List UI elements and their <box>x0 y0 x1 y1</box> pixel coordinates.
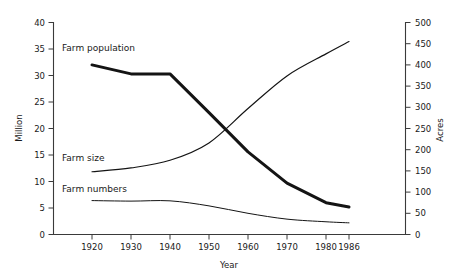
right-tick-label: 350 <box>415 81 431 91</box>
right-tick-label: 200 <box>415 145 431 155</box>
right-tick-label: 0 <box>415 230 420 240</box>
left-axis-tick-labels: 40 35 30 25 20 15 10 5 0 <box>34 18 45 240</box>
left-tick-label: 5 <box>40 203 45 213</box>
right-tick-label: 100 <box>415 187 431 197</box>
x-tick-label: 1960 <box>237 242 259 252</box>
axis-lines <box>54 22 406 235</box>
x-tick-label: 1940 <box>159 242 181 252</box>
right-tick-label: 400 <box>415 60 431 70</box>
left-tick-label: 20 <box>34 124 45 134</box>
right-axis-title: Acres <box>435 118 445 142</box>
left-axis-ticks <box>49 23 54 235</box>
x-axis-tick-labels: 1920 1930 1940 1950 1960 1970 1980 1986 <box>81 242 360 252</box>
x-tick-label: 1920 <box>81 242 103 252</box>
series-line-farm-population <box>92 65 349 207</box>
right-tick-label: 500 <box>415 18 431 28</box>
x-tick-label: 1970 <box>276 242 298 252</box>
left-axis-title: Million <box>14 114 24 141</box>
x-tick-label: 1950 <box>198 242 220 252</box>
series-line-farm-size <box>92 42 349 172</box>
right-tick-label: 250 <box>415 124 431 134</box>
left-tick-label: 0 <box>40 230 45 240</box>
x-tick-label: 1930 <box>120 242 142 252</box>
series-line-farm-numbers <box>92 201 349 223</box>
left-tick-label: 40 <box>34 18 45 28</box>
left-tick-label: 35 <box>34 44 45 54</box>
right-tick-label: 450 <box>415 39 431 49</box>
left-tick-label: 30 <box>34 71 45 81</box>
chart-figure: 40 35 30 25 20 15 10 5 0 Million <box>0 0 462 275</box>
right-tick-label: 300 <box>415 102 431 112</box>
x-axis-ticks <box>92 235 349 240</box>
right-axis-tick-labels: 500 450 400 350 300 250 200 150 100 50 0 <box>415 18 431 240</box>
right-axis-ticks <box>406 23 411 235</box>
series-annotation-farm-numbers: Farm numbers <box>62 184 127 194</box>
x-tick-label: 1980 <box>315 242 337 252</box>
left-tick-label: 15 <box>34 150 45 160</box>
x-tick-label: 1986 <box>338 242 360 252</box>
left-tick-label: 10 <box>34 177 45 187</box>
x-axis-title: Year <box>219 260 239 270</box>
left-tick-label: 25 <box>34 97 45 107</box>
right-tick-label: 150 <box>415 166 431 176</box>
right-tick-label: 50 <box>415 208 426 218</box>
axis-group <box>54 22 406 235</box>
line-chart: 40 35 30 25 20 15 10 5 0 Million <box>0 0 462 275</box>
series-annotation-farm-population: Farm population <box>62 43 135 53</box>
series-annotation-farm-size: Farm size <box>62 153 105 163</box>
